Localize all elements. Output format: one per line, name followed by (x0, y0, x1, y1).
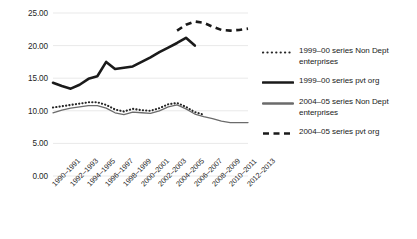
legend-swatch-solid-thick-icon (262, 77, 294, 88)
y-axis-tick-label: 20.00 (28, 41, 48, 50)
y-axis-tick-label: 15.00 (28, 74, 48, 83)
y-axis-tick-label: 25.00 (28, 9, 48, 18)
legend-swatch-solid-gray-icon (262, 98, 294, 109)
legend-item[interactable]: 2004–05 series Non Dept enterprises (262, 97, 417, 118)
legend-item[interactable]: 1999–00 series pvt org (262, 76, 417, 88)
legend-label: 2004–05 series Non Dept enterprises (299, 97, 417, 118)
legend-item[interactable]: 2004–05 series pvt org (262, 127, 417, 139)
y-axis-labels: 25.0020.0015.0010.005.000.00 (0, 0, 52, 190)
line-chart: 25.0020.0015.0010.005.000.00 1990–199119… (0, 0, 417, 239)
y-axis-tick-label: 5.00 (32, 139, 48, 148)
x-axis-labels: 1990–19911992–19931994–19951996–19971998… (0, 176, 260, 239)
series-line-2 (53, 105, 248, 123)
chart-legend: 1999–00 series Non Dept enterprises1999–… (262, 46, 417, 148)
legend-label: 1999–00 series pvt org (299, 76, 379, 87)
legend-swatch-dotted-icon (262, 47, 294, 58)
legend-item[interactable]: 1999–00 series Non Dept enterprises (262, 46, 417, 67)
legend-swatch-dashed-icon (262, 128, 294, 139)
y-axis-tick-label: 10.00 (28, 106, 48, 115)
legend-label: 1999–00 series Non Dept enterprises (299, 46, 417, 67)
series-line-3 (177, 21, 248, 30)
legend-label: 2004–05 series pvt org (299, 127, 379, 138)
